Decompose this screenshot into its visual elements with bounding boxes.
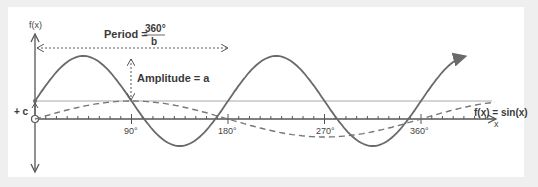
sine-transform-diagram: f(x) + c x Period = 360° b Amplitude = a… [0, 0, 538, 187]
y-axis-label: f(x) [29, 20, 42, 30]
offset-c-arrow [32, 103, 38, 115]
period-denominator: b [151, 36, 157, 47]
tick-label-180: 180° [218, 126, 237, 136]
reference-curve-label: f(x) = sin(x) [474, 107, 528, 118]
tick-label-270: 270° [316, 126, 335, 136]
tick-label-360: 360° [410, 126, 429, 136]
period-label: Period = [104, 28, 148, 40]
tick-label-90: 90° [124, 126, 138, 136]
x-axis-label: x [494, 119, 499, 129]
amplitude-label: Amplitude = a [137, 72, 210, 84]
period-numerator: 360° [145, 23, 166, 34]
offset-c-label: + c [14, 106, 29, 117]
x-axis [35, 115, 496, 123]
